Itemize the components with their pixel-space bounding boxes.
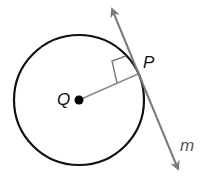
right-angle-marker: [112, 56, 126, 83]
label-line-m: m: [180, 136, 194, 155]
radius-segment: [79, 74, 138, 100]
center-point: [75, 96, 84, 105]
label-center-q: Q: [57, 90, 70, 109]
label-point-p: P: [143, 53, 155, 72]
geometry-diagram: Q P m: [0, 0, 205, 181]
